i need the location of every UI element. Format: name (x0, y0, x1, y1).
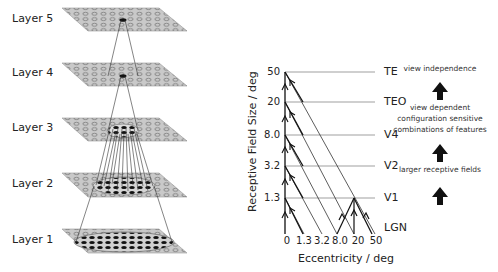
annotation-combinations-of-features: combinations of features (385, 125, 495, 135)
y-axis-title: Receptive Field Size / deg (246, 71, 259, 212)
area-v1: V1 (384, 191, 399, 204)
annotation-configuration-sensitive: configuration sensitive (385, 114, 495, 124)
y-tick-50: 50 (256, 66, 280, 77)
y-tick-1-3: 1.3 (256, 192, 280, 203)
layer-5-plane (62, 8, 187, 31)
y-tick-8: 8.0 (256, 129, 280, 140)
annotation-view-dependent: view dependent (385, 103, 495, 113)
layer-4-plane (62, 63, 187, 86)
annotation-view-independence: view independence (385, 64, 495, 74)
layer-1-plane (62, 229, 187, 253)
annotation-larger-receptive-fields: larger receptive fields (385, 165, 495, 175)
x-tick-50: 50 (364, 235, 388, 246)
layer-2-plane (62, 173, 187, 197)
area-lgn: LGN (384, 221, 407, 234)
y-tick-20: 20 (256, 96, 280, 107)
receptive-field-graph (282, 72, 448, 234)
layer-3-plane (62, 118, 187, 141)
y-tick-3-2: 3.2 (256, 160, 280, 171)
x-axis-title: Eccentricity / deg (298, 252, 394, 265)
